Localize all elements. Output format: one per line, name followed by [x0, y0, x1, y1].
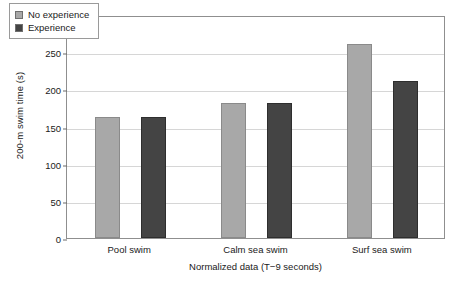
gridline [67, 203, 444, 204]
legend: No experienceExperience [9, 3, 99, 39]
y-axis-tick-mark [63, 91, 67, 92]
y-axis-tick-label: 150 [45, 124, 61, 134]
legend-item: Experience [15, 21, 89, 34]
y-axis-tick-label: 250 [45, 49, 61, 59]
gridline [67, 91, 444, 92]
y-axis-tick-mark [63, 128, 67, 129]
y-axis-title: 200-m swim time (s) [14, 36, 25, 196]
bar [393, 81, 418, 238]
bar [141, 117, 166, 238]
y-axis-tick-mark [63, 54, 67, 55]
legend-item: No experience [15, 8, 89, 21]
legend-item-label: Experience [28, 23, 76, 33]
bar [347, 44, 372, 238]
x-axis-category-label: Pool swim [108, 244, 151, 255]
bar [267, 103, 292, 238]
plot-area: 050100150200250300 [66, 16, 445, 239]
y-axis-tick-label: 100 [45, 161, 61, 171]
y-axis-tick-mark [63, 240, 67, 241]
x-axis-category-label: Calm sea swim [223, 244, 287, 255]
legend-item-label: No experience [28, 10, 89, 20]
y-axis-tick-label: 50 [50, 198, 61, 208]
y-axis-tick-mark [63, 165, 67, 166]
y-axis-tick-mark [63, 202, 67, 203]
x-axis-category-label: Surf sea swim [352, 244, 412, 255]
x-axis-title: Normalized data (T−9 seconds) [66, 261, 445, 272]
y-axis-tick-label: 0 [56, 235, 61, 245]
bar [221, 103, 246, 238]
y-axis-tick-label: 200 [45, 87, 61, 97]
bar [95, 117, 120, 238]
bar-chart-figure: 200-m swim time (s) 050100150200250300 P… [0, 0, 462, 284]
light-gray-square-icon [15, 11, 23, 19]
gridline [67, 129, 444, 130]
gridline [67, 54, 444, 55]
gridline [67, 166, 444, 167]
dark-gray-square-icon [15, 24, 23, 32]
